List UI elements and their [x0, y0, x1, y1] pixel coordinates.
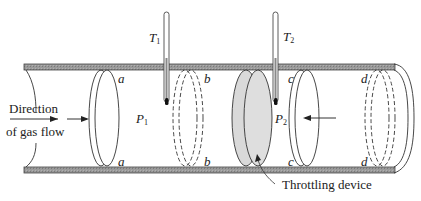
label-a-bottom: a [118, 155, 125, 168]
p1-symbol: P [136, 111, 144, 126]
label-d-bottom: d [361, 155, 368, 168]
flow-arrow-right [67, 116, 89, 122]
t2-subscript: 2 [290, 36, 294, 45]
label-a-top: a [118, 72, 125, 85]
piston-a [89, 70, 119, 166]
p1-subscript: 1 [144, 118, 148, 127]
label-t1: T1 [149, 31, 160, 46]
throttling-device [232, 70, 272, 166]
label-d-top: d [361, 72, 368, 85]
thermometer-t1 [164, 12, 169, 105]
tube-left-opening-lower [26, 143, 36, 167]
tube-right-end-inner [394, 70, 408, 167]
flow-arrow-left [10, 116, 58, 122]
label-b-bottom: b [204, 155, 211, 168]
label-p2: P2 [275, 112, 287, 127]
label-c-top: c [288, 72, 294, 85]
label-p1: P1 [136, 112, 148, 127]
label-t2: T2 [283, 30, 294, 45]
label-c-bottom: c [288, 155, 294, 168]
t1-subscript: 1 [156, 37, 160, 46]
tube-top-wall [24, 64, 395, 70]
flow-direction-label-line2: of gas flow [6, 125, 65, 138]
joule-thomson-diagram [0, 0, 421, 201]
p2-subscript: 2 [283, 118, 287, 127]
label-b-top: b [204, 72, 211, 85]
throttling-device-label: Throttling device [282, 178, 372, 191]
piston-d [365, 70, 395, 166]
thermometer-t2 [273, 12, 278, 105]
flow-direction-label-line1: Direction [9, 102, 58, 115]
p2-symbol: P [275, 111, 283, 126]
piston-b [173, 70, 203, 166]
tube-right-end [394, 64, 414, 173]
